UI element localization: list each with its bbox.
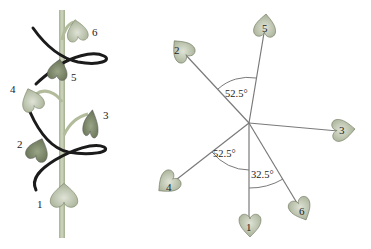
plant-label-2: 2	[17, 138, 23, 150]
plant-label-4: 4	[10, 83, 16, 95]
leaf-3	[82, 108, 100, 139]
plant-label-3: 3	[103, 109, 109, 121]
plant-label-6: 6	[92, 26, 98, 38]
plant-illustration: 1 2 3 4 5 6	[10, 10, 109, 238]
angle-label-1-6: 32.5°	[251, 169, 274, 180]
plant-label-1: 1	[37, 198, 43, 210]
diagram-label-6: 6	[299, 205, 305, 217]
leaf-4	[18, 85, 46, 114]
diagram-label-3: 3	[339, 124, 345, 136]
ray-3	[249, 123, 338, 131]
ray-5	[249, 27, 265, 123]
diagram-label-2: 2	[174, 44, 180, 56]
diagram-label-5: 5	[262, 22, 268, 34]
phyllotaxis-diagram: 52.5° 52.5° 32.5° 1 2 3 4 5 6	[152, 13, 356, 237]
ray-4	[172, 123, 249, 183]
diagram-label-1: 1	[246, 221, 252, 233]
plant-label-5: 5	[71, 71, 77, 83]
diagram-leaf-2	[166, 34, 197, 66]
spiral-path	[30, 28, 106, 190]
arc-1-6	[249, 179, 283, 188]
diagram-label-4: 4	[166, 181, 172, 193]
angle-label-4-1: 52.5°	[213, 148, 236, 159]
leaf-1	[50, 183, 78, 207]
angle-label-2-5: 52.5°	[225, 88, 248, 99]
ray-6	[249, 123, 300, 208]
leaf-6	[65, 18, 89, 43]
phyllotaxis-figure: 1 2 3 4 5 6 52.5° 52.5° 32.5°	[0, 0, 371, 249]
